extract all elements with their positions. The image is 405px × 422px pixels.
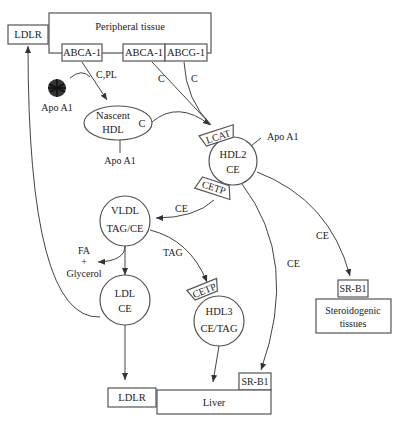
hdl3-to-liver-arrow: [213, 346, 219, 382]
steroid-label-2: tissues: [340, 318, 367, 329]
srb1-steroid-label: SR-B1: [339, 283, 366, 294]
ce-to-steroid-label: CE: [316, 230, 329, 241]
ldlr-top-label: LDLR: [14, 29, 41, 40]
hdl3-particle: HDL3 CE/TAG: [194, 296, 244, 346]
c-abca1-label: C: [158, 73, 165, 84]
tag-to-hdl3-label: TAG: [163, 247, 183, 258]
hdl2-apoa1-connector: [251, 138, 261, 146]
hdl2-to-liver-arrow: [242, 184, 277, 370]
nascent-hdl-label-2: HDL: [102, 124, 124, 135]
ldl-label-1: LDL: [115, 288, 135, 299]
abca1-left-box: ABCA-1: [62, 44, 102, 61]
nascent-hdl-ellipse: Nascent HDL C: [84, 106, 152, 140]
nascent-apoa1-label: Apo A1: [104, 155, 135, 166]
nascent-hdl-c-label: C: [138, 118, 145, 129]
liver-box: Liver: [157, 390, 271, 414]
abcg1-c-line: [184, 62, 211, 125]
hdl3-label-2: CE/TAG: [200, 323, 237, 334]
abcg1-box: ABCG-1: [165, 44, 207, 61]
ce-to-vldl-label: CE: [175, 203, 188, 214]
ldl-label-2: CE: [118, 303, 131, 314]
srb1-steroid-box: SR-B1: [338, 280, 368, 297]
peripheral-tissue-label: Peripheral tissue: [95, 21, 165, 32]
lipoprotein-pathway-diagram: Peripheral tissue LDLR ABCA-1 ABCA-1 ABC…: [0, 0, 405, 422]
fa-label: FA: [78, 245, 91, 256]
hdl2-label-2: CE: [226, 164, 239, 175]
ldlr-bottom-label: LDLR: [118, 392, 145, 403]
hdl2-particle: HDL2 CE: [209, 137, 257, 185]
vldl-label-2: TAG/CE: [106, 223, 143, 234]
apoa1-free-label: Apo A1: [41, 102, 72, 113]
hdl2-label-1: HDL2: [220, 149, 247, 160]
steroidogenic-tissues-box: Steroidogenic tissues: [316, 299, 391, 333]
glycerol-label: Glycerol: [67, 268, 102, 279]
steroid-label-1: Steroidogenic: [325, 305, 381, 316]
hdl2-to-steroid-arrow: [257, 172, 350, 276]
apoa1-to-abca1-curve: [70, 73, 90, 78]
abcg1-label: ABCG-1: [167, 47, 205, 58]
plus-label: +: [81, 256, 87, 267]
c-pl-label: C,PL: [96, 69, 117, 80]
hdl3-label-1: HDL3: [206, 306, 233, 317]
abca1-right-box: ABCA-1: [123, 44, 165, 61]
ce-to-liver-label: CE: [287, 258, 300, 269]
ldl-particle: LDL CE: [100, 275, 150, 325]
abca1-to-nascent-arrow: [82, 62, 107, 100]
vldl-label-1: VLDL: [111, 205, 139, 216]
srb1-liver-box: SR-B1: [239, 373, 271, 390]
apoa1-protein-icon: [48, 79, 66, 97]
vldl-to-fa-arrow: [98, 246, 125, 262]
abca1-left-label: ABCA-1: [63, 47, 101, 58]
c-abcg1-label: C: [191, 73, 198, 84]
hdl2-apoa1-label: Apo A1: [267, 131, 298, 142]
srb1-liver-label: SR-B1: [241, 376, 268, 387]
vldl-particle: VLDL TAG/CE: [100, 196, 150, 246]
liver-label: Liver: [203, 397, 226, 408]
abca1-right-label: ABCA-1: [125, 47, 163, 58]
ldlr-bottom-box: LDLR: [108, 388, 156, 407]
nascent-hdl-label-1: Nascent: [96, 110, 130, 121]
ldlr-top-box: LDLR: [8, 25, 48, 44]
